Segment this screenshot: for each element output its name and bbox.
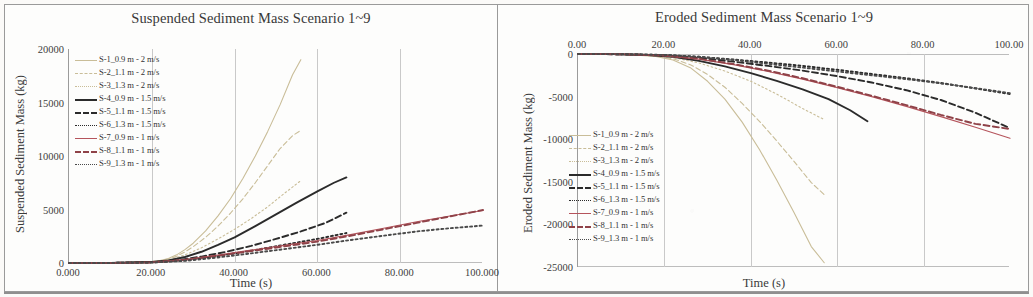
y-tick-label: -15000 xyxy=(525,176,573,187)
legend-item[interactable]: S-5_1.1 m - 1.5 m/s xyxy=(75,105,165,118)
y-tick-label: -10000 xyxy=(525,134,573,145)
series-line xyxy=(69,226,483,263)
legend-item-label: S-9_1.3 m - 1 m/s xyxy=(593,234,653,243)
legend-line-swatch xyxy=(569,222,591,229)
legend-line-swatch xyxy=(75,147,97,154)
legend-item-label: S-9_1.3 m - 1 m/s xyxy=(99,159,159,168)
legend-item[interactable]: S-6_1.3 m - 1.5 m/s xyxy=(75,118,165,131)
y-tick-label: -20000 xyxy=(525,219,573,230)
legend-item-label: S-7_0.9 m - 1 m/s xyxy=(99,133,159,142)
legend-item[interactable]: S-8_1.1 m - 1 m/s xyxy=(569,219,659,232)
legend-item[interactable]: S-2_1.1 m - 2 m/s xyxy=(75,66,165,79)
legend-item-label: S-8_1.1 m - 1 m/s xyxy=(99,146,159,155)
legend-line-swatch xyxy=(75,82,97,89)
x-tick-label: 60.00 xyxy=(824,39,848,50)
legend-line-swatch xyxy=(75,121,97,128)
chart-title-eroded: Eroded Sediment Mass Scenario 1~9 xyxy=(499,9,1029,26)
panel-divider xyxy=(497,4,498,292)
series-line xyxy=(69,210,483,263)
legend-line-swatch xyxy=(75,69,97,76)
series-line xyxy=(69,211,483,263)
series-line xyxy=(578,54,867,121)
legend-item[interactable]: S-1_0.9 m - 2 m/s xyxy=(75,53,165,66)
legend-item-label: S-1_0.9 m - 2 m/s xyxy=(593,130,653,139)
legend-line-swatch xyxy=(569,131,591,138)
legend-item-label: S-2_1.1 m - 2 m/s xyxy=(593,143,653,152)
series-line xyxy=(69,213,346,263)
x-tick-label: 20.00 xyxy=(652,39,676,50)
y-tick-label: 0 xyxy=(525,49,573,60)
legend-line-swatch xyxy=(569,183,591,190)
chart-panel-suspended: Suspended Sediment Mass Scenario 1~9 Sus… xyxy=(5,4,497,292)
y-tick-label: 10000 xyxy=(16,151,64,162)
legend-item[interactable]: S-3_1.3 m - 2 m/s xyxy=(569,154,659,167)
legend-line-swatch xyxy=(569,144,591,151)
legend-item[interactable]: S-4_0.9 m - 1.5 m/s xyxy=(75,92,165,105)
legend-item-label: S-2_1.1 m - 2 m/s xyxy=(99,68,159,77)
legend-item[interactable]: S-9_1.3 m - 1 m/s xyxy=(75,157,165,170)
legend-line-swatch xyxy=(569,157,591,164)
legend-item-label: S-5_1.1 m - 1.5 m/s xyxy=(99,107,165,116)
legend-item[interactable]: S-9_1.3 m - 1 m/s xyxy=(569,232,659,245)
legend-line-swatch xyxy=(75,134,97,141)
x-tick-label: 0.000 xyxy=(56,267,80,278)
legend-item[interactable]: S-8_1.1 m - 1 m/s xyxy=(75,144,165,157)
legend-line-swatch xyxy=(75,95,97,102)
figure-page: Suspended Sediment Mass Scenario 1~9 Sus… xyxy=(0,0,1033,297)
legend-line-swatch xyxy=(569,235,591,242)
legend-item[interactable]: S-1_0.9 m - 2 m/s xyxy=(569,128,659,141)
x-tick-label: 0.00 xyxy=(568,39,586,50)
legend-item[interactable]: S-4_0.9 m - 1.5 m/s xyxy=(569,167,659,180)
legend-line-swatch xyxy=(75,56,97,63)
x-tick-label: 20.000 xyxy=(136,267,165,278)
legend-item[interactable]: S-5_1.1 m - 1.5 m/s xyxy=(569,180,659,193)
x-tick-label: 100.000 xyxy=(465,267,499,278)
legend-line-swatch xyxy=(75,108,97,115)
x-tick-label: 80.00 xyxy=(911,39,935,50)
legend-item-label: S-4_0.9 m - 1.5 m/s xyxy=(99,94,165,103)
legend-item-label: S-1_0.9 m - 2 m/s xyxy=(99,55,159,64)
x-tick-label: 60.000 xyxy=(302,267,331,278)
legend-item-label: S-7_0.9 m - 1 m/s xyxy=(593,208,653,217)
x-tick-label: 100.00 xyxy=(995,39,1024,50)
legend-item[interactable]: S-7_0.9 m - 1 m/s xyxy=(569,206,659,219)
y-tick-label: -5000 xyxy=(525,91,573,102)
legend-item[interactable]: S-6_1.3 m - 1.5 m/s xyxy=(569,193,659,206)
legend-eroded: S-1_0.9 m - 2 m/sS-2_1.1 m - 2 m/sS-3_1.… xyxy=(569,128,659,245)
x-tick-label: 40.00 xyxy=(738,39,762,50)
x-tick-label: 80.000 xyxy=(385,267,414,278)
legend-item[interactable]: S-3_1.3 m - 2 m/s xyxy=(75,79,165,92)
series-line xyxy=(69,177,346,263)
legend-item-label: S-3_1.3 m - 2 m/s xyxy=(593,156,653,165)
chart-title-suspended: Suspended Sediment Mass Scenario 1~9 xyxy=(5,10,497,27)
series-line xyxy=(578,54,824,120)
x-axis-title-eroded: Time (s) xyxy=(499,276,1029,291)
y-tick-label: 5000 xyxy=(16,204,64,215)
legend-item-label: S-6_1.3 m - 1.5 m/s xyxy=(99,120,165,129)
y-tick-label: 15000 xyxy=(16,97,64,108)
x-axis-title-suspended: Time (s) xyxy=(5,276,497,291)
legend-line-swatch xyxy=(75,160,97,167)
legend-line-swatch xyxy=(569,209,591,216)
legend-line-swatch xyxy=(569,170,591,177)
x-tick-label: 40.000 xyxy=(219,267,248,278)
legend-item-label: S-4_0.9 m - 1.5 m/s xyxy=(593,169,659,178)
y-tick-label: -25000 xyxy=(525,262,573,273)
legend-item-label: S-5_1.1 m - 1.5 m/s xyxy=(593,182,659,191)
legend-line-swatch xyxy=(569,196,591,203)
legend-item-label: S-8_1.1 m - 1 m/s xyxy=(593,221,653,230)
y-tick-label: 20000 xyxy=(16,44,64,55)
legend-item[interactable]: S-7_0.9 m - 1 m/s xyxy=(75,131,165,144)
chart-panel-eroded: Eroded Sediment Mass Scenario 1~9 Eroded… xyxy=(499,4,1029,292)
legend-item[interactable]: S-2_1.1 m - 2 m/s xyxy=(569,141,659,154)
legend-item-label: S-6_1.3 m - 1.5 m/s xyxy=(593,195,659,204)
series-line xyxy=(578,54,1010,94)
legend-suspended: S-1_0.9 m - 2 m/sS-2_1.1 m - 2 m/sS-3_1.… xyxy=(75,53,165,170)
legend-item-label: S-3_1.3 m - 2 m/s xyxy=(99,81,159,90)
